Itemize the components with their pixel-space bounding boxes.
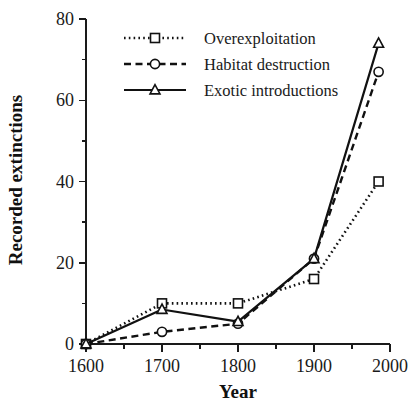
series-line — [86, 182, 379, 345]
series-line — [86, 72, 379, 344]
x-axis-tick-labels: 16001700180019002000 — [68, 356, 408, 376]
chart-legend: OverexploitationHabitat destructionExoti… — [124, 29, 338, 100]
series-habitat-destruction — [81, 67, 383, 348]
legend-label: Exotic introductions — [204, 81, 338, 100]
data-point-square — [234, 299, 243, 308]
x-axis-major-ticks — [86, 344, 390, 352]
x-tick-label: 1600 — [68, 356, 104, 376]
legend-entry: Overexploitation — [124, 29, 316, 48]
legend-entry: Habitat destruction — [124, 55, 330, 74]
legend-label: Overexploitation — [204, 29, 316, 48]
x-axis-title: Year — [219, 381, 258, 402]
y-tick-label: 0 — [65, 334, 74, 354]
data-point-circle — [374, 67, 383, 76]
x-tick-label: 1800 — [220, 356, 256, 376]
y-tick-label: 60 — [56, 90, 74, 110]
y-tick-label: 80 — [56, 9, 74, 29]
chart-figure: 020406080 16001700180019002000 Overexplo… — [0, 0, 411, 408]
data-point-triangle — [374, 38, 384, 47]
series-overexploitation — [82, 177, 384, 349]
x-tick-label: 1900 — [296, 356, 332, 376]
data-point-square — [374, 177, 383, 186]
x-tick-label: 2000 — [372, 356, 408, 376]
y-axis-tick-labels: 020406080 — [56, 9, 74, 354]
y-tick-label: 20 — [56, 253, 74, 273]
data-point-circle — [150, 59, 159, 68]
data-point-square — [310, 275, 319, 284]
x-tick-label: 1700 — [144, 356, 180, 376]
data-point-circle — [157, 327, 166, 336]
y-axis-major-ticks — [79, 19, 86, 344]
y-tick-label: 40 — [56, 172, 74, 192]
line-chart: 020406080 16001700180019002000 Overexplo… — [0, 0, 411, 408]
y-axis-title: Recorded extinctions — [5, 95, 26, 265]
data-point-square — [151, 34, 160, 43]
legend-entry: Exotic introductions — [124, 81, 338, 100]
legend-label: Habitat destruction — [204, 55, 330, 74]
